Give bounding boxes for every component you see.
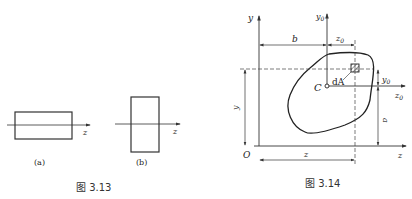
z-dimension-label: z	[303, 150, 309, 159]
centroid-label: C	[314, 82, 322, 93]
z-axis-label: z	[82, 128, 88, 137]
cross-section-shape	[288, 53, 374, 134]
z0-dimension-label: z0	[335, 34, 344, 44]
z0-axis-label: z0	[394, 91, 403, 101]
b-label: b	[292, 34, 298, 44]
figure-3-14-caption: 图 3.14	[305, 178, 340, 189]
dA-label: dA	[332, 77, 345, 87]
figure-3-13-caption: 图 3.13	[76, 182, 111, 193]
figure-3-14: y z O y0 z0 C dA b z0 y0 a	[231, 12, 406, 164]
z-axis-label: z	[172, 127, 178, 136]
origin-label: O	[243, 150, 251, 160]
z-axis-label: z	[397, 151, 403, 160]
centroid-marker	[325, 84, 329, 88]
rectangle-wide	[15, 112, 72, 139]
y0-axis-label: y0	[315, 12, 325, 22]
subfigure-a-label: (a)	[34, 158, 45, 167]
y-axis-label: y	[247, 13, 254, 23]
y0-dimension-label: y0	[381, 75, 391, 85]
subfigure-b-label: (b)	[136, 158, 147, 167]
figure-3-13-a: z (a)	[7, 112, 90, 167]
figures-canvas: z (a) z (b) 图 3.13 y z O y0 z0 C dA	[0, 0, 412, 199]
a-label: a	[381, 118, 390, 123]
rectangle-tall	[131, 97, 159, 152]
figure-3-13-b: z (b)	[115, 97, 180, 167]
y-dimension-label: y	[231, 105, 240, 111]
